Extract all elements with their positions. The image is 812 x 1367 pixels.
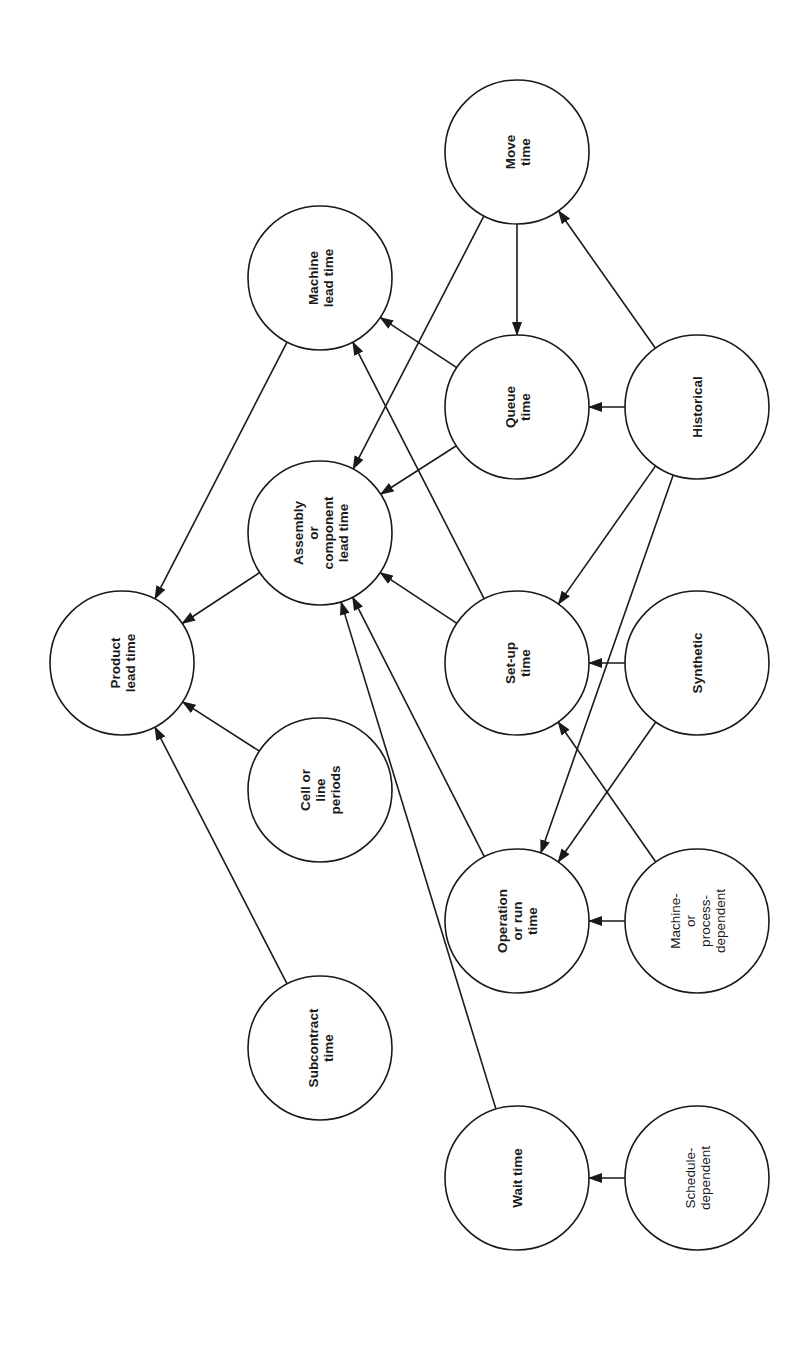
node-label-line: component [321,496,336,569]
node-label-line: time [518,138,533,166]
node-label-line: Move [503,134,518,169]
node-machine_lt: Machinelead time [248,206,392,350]
node-synthetic: Synthetic [625,591,769,735]
nodes-layer: Productlead timeMachinelead timeAssembly… [50,80,769,1250]
node-label-line: dependent [713,889,728,953]
node-historical: Historical [625,335,769,479]
edges-layer [155,211,673,1178]
edge-historical-to-move [559,211,656,348]
node-label: Synthetic [690,632,705,693]
edge-assembly-to-product [182,573,260,624]
node-label-line: time [518,649,533,677]
node-label-line: Operation [495,889,510,953]
node-label-line: Wait time [510,1148,525,1208]
node-label-line: process- [698,895,713,947]
node-label: Machinelead time [306,248,336,307]
node-label: Historical [690,376,705,438]
node-label-line: line [313,778,328,802]
edge-queue-to-assembly [381,446,457,494]
node-label-line: Subcontract [306,1008,321,1087]
node-label-line: Machine [306,251,321,306]
node-assembly: Assemblyorcomponentlead time [248,461,392,605]
node-label: Productlead time [108,633,138,692]
node-label-line: or [306,526,321,540]
node-queue: Queuetime [445,335,589,479]
node-operation: Operationor runtime [445,849,589,993]
node-label-line: Assembly [291,501,306,565]
node-cell: Cell orlineperiods [248,718,392,862]
node-label-line: Machine- [668,893,683,949]
node-machine_dep: Machine-orprocess-dependent [625,849,769,993]
node-label-line: periods [328,766,343,815]
node-label-line: lead time [123,633,138,692]
node-label: Movetime [503,134,533,169]
node-move: Movetime [445,80,589,224]
node-product: Productlead time [50,591,194,735]
node-label-line: time [518,393,533,421]
node-subcontract: Subcontracttime [248,976,392,1120]
node-label-line: Synthetic [690,632,705,693]
node-label-line: time [525,907,540,935]
node-setup: Set-uptime [445,591,589,735]
node-label: Wait time [510,1148,525,1208]
node-label-line: Cell or [298,768,313,811]
edge-setup-to-assembly [380,573,457,624]
node-label: Machine-orprocess-dependent [668,889,728,953]
node-wait: Wait time [445,1106,589,1250]
node-label-line: Queue [503,386,518,429]
node-label-line: Historical [690,376,705,438]
node-label-line: lead time [336,503,351,562]
node-label: Assemblyorcomponentlead time [291,496,351,569]
node-label-line: Product [108,637,123,689]
node-label: Schedule-dependent [683,1146,713,1210]
edge-historical-to-setup [558,466,655,604]
node-schedule: Schedule-dependent [625,1106,769,1250]
node-label-line: Set-up [503,642,518,684]
edge-cell-to-product [183,702,260,751]
node-label-line: or run [510,902,525,941]
node-label-line: time [321,1034,336,1062]
lead-time-diagram: Productlead timeMachinelead timeAssembly… [0,0,812,1367]
node-label-line: lead time [321,248,336,307]
node-label-line: Schedule- [683,1148,698,1209]
node-label-line: dependent [698,1146,713,1210]
node-label-line: or [683,914,698,927]
